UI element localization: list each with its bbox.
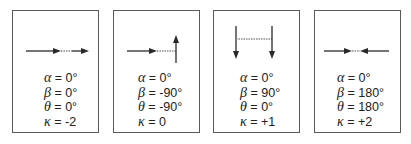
alpha-row: α = 0° [138, 71, 223, 86]
equals: = [51, 71, 65, 85]
theta-symbol: θ [138, 99, 145, 114]
equals: = [51, 86, 65, 100]
equals: = [247, 115, 261, 129]
parameter-list: α = 0° β = 0° θ = 0° κ = -2 [13, 71, 129, 129]
kappa-symbol: κ [337, 114, 344, 129]
alpha-value: 0° [160, 71, 172, 85]
equals: = [247, 100, 261, 114]
beta-symbol: β [44, 85, 51, 100]
equals: = [344, 71, 358, 85]
alpha-value: 0° [359, 71, 371, 85]
kappa-value: -2 [65, 115, 76, 129]
theta-symbol: θ [240, 99, 247, 114]
beta-value: 0° [65, 86, 77, 100]
theta-value: 0° [261, 100, 273, 114]
parameter-list: α = 0° β = 180° θ = 180° κ = +2 [315, 71, 411, 129]
theta-row: θ = 180° [337, 100, 411, 115]
equals: = [344, 115, 358, 129]
panel-1: α = 0° β = 0° θ = 0° κ = -2 [12, 10, 99, 133]
panel-4: α = 0° β = 180° θ = 180° κ = +2 [314, 10, 401, 133]
theta-value: 0° [65, 100, 77, 114]
kappa-row: κ = +2 [337, 115, 411, 130]
equals: = [344, 86, 358, 100]
equals: = [145, 100, 159, 114]
beta-row: β = -90° [138, 86, 223, 101]
kappa-value: 0 [159, 115, 166, 129]
equals: = [247, 86, 261, 100]
opposing-arrows-icon [315, 11, 402, 71]
beta-row: β = 90° [240, 86, 325, 101]
parallel-down-arrows-icon [214, 11, 301, 71]
perpendicular-arrows-icon [114, 11, 201, 71]
theta-symbol: θ [337, 99, 344, 114]
alpha-value: 0° [262, 71, 274, 85]
theta-value: 180° [358, 100, 384, 114]
parameter-list: α = 0° β = -90° θ = -90° κ = 0 [114, 71, 223, 129]
equals: = [344, 100, 358, 114]
panel-3: α = 0° β = 90° θ = 0° κ = +1 [213, 10, 300, 133]
kappa-row: κ = +1 [240, 115, 325, 130]
panel-2: α = 0° β = -90° θ = -90° κ = 0 [113, 10, 200, 133]
theta-value: -90° [159, 100, 182, 114]
beta-symbol: β [138, 85, 145, 100]
kappa-symbol: κ [44, 114, 51, 129]
beta-symbol: β [240, 85, 247, 100]
equals: = [51, 100, 65, 114]
beta-row: β = 180° [337, 86, 411, 101]
equals: = [51, 115, 65, 129]
equals: = [145, 115, 159, 129]
kappa-value: +2 [358, 115, 372, 129]
theta-row: θ = 0° [240, 100, 325, 115]
alpha-value: 0° [66, 71, 78, 85]
kappa-row: κ = 0 [138, 115, 223, 130]
alpha-row: α = 0° [240, 71, 325, 86]
alpha-row: α = 0° [337, 71, 411, 86]
beta-value: -90° [159, 86, 182, 100]
equals: = [247, 71, 261, 85]
parameter-list: α = 0° β = 90° θ = 0° κ = +1 [214, 71, 325, 129]
theta-symbol: θ [44, 99, 51, 114]
collinear-same-direction-arrows-icon [13, 11, 100, 71]
kappa-symbol: κ [240, 114, 247, 129]
theta-row: θ = -90° [138, 100, 223, 115]
beta-value: 90° [261, 86, 280, 100]
kappa-symbol: κ [138, 114, 145, 129]
equals: = [145, 86, 159, 100]
beta-value: 180° [358, 86, 384, 100]
kappa-value: +1 [261, 115, 275, 129]
beta-symbol: β [337, 85, 344, 100]
equals: = [145, 71, 159, 85]
